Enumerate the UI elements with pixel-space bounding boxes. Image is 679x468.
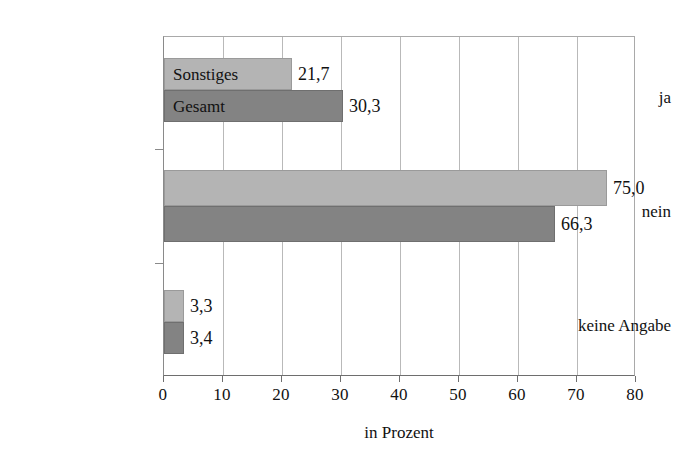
- xtick-mark-0: [163, 376, 164, 382]
- category-tick-2: [155, 263, 163, 264]
- category-label-keine-angabe: keine Angabe: [524, 316, 679, 336]
- category-tick-1: [155, 149, 163, 150]
- category-label-nein: nein: [524, 202, 679, 222]
- xtick-label-30: 30: [310, 385, 370, 405]
- bar-label-gesamt: Gesamt: [173, 97, 225, 116]
- value-label-keine-angabe-sonstiges: 3,3: [190, 296, 213, 316]
- xtick-label-50: 50: [428, 385, 488, 405]
- xtick-label-70: 70: [546, 385, 606, 405]
- xtick-mark-30: [340, 376, 341, 382]
- bar-keine-angabe-gesamt: [164, 322, 184, 354]
- xtick-label-80: 80: [605, 385, 665, 405]
- value-label-ja-gesamt: 30,3: [349, 96, 381, 116]
- bar-nein-sonstiges: [164, 170, 607, 206]
- value-label-ja-sonstiges: 21,7: [298, 64, 330, 84]
- x-axis-title: in Prozent: [163, 423, 635, 443]
- bar-ja-sonstiges: Sonstiges: [164, 58, 292, 90]
- bar-keine-angabe-sonstiges: [164, 290, 184, 322]
- value-label-keine-angabe-gesamt: 3,4: [190, 328, 213, 348]
- xtick-mark-10: [222, 376, 223, 382]
- xtick-label-60: 60: [487, 385, 547, 405]
- xtick-label-20: 20: [251, 385, 311, 405]
- xtick-mark-80: [635, 376, 636, 382]
- xtick-label-10: 10: [192, 385, 252, 405]
- bar-label-sonstiges: Sonstiges: [173, 65, 238, 84]
- bar-ja-gesamt: Gesamt: [164, 90, 343, 122]
- xtick-mark-60: [517, 376, 518, 382]
- xtick-mark-50: [458, 376, 459, 382]
- value-label-nein-sonstiges: 75,0: [613, 178, 645, 198]
- bar-chart: Sonstiges 21,7 Gesamt 30,3 75,0 66,3 3,3…: [0, 0, 679, 468]
- xtick-mark-20: [281, 376, 282, 382]
- xtick-label-0: 0: [133, 385, 193, 405]
- bar-nein-gesamt: [164, 206, 555, 242]
- xtick-mark-70: [576, 376, 577, 382]
- category-label-ja: ja: [524, 88, 679, 108]
- xtick-mark-40: [399, 376, 400, 382]
- xtick-label-40: 40: [369, 385, 429, 405]
